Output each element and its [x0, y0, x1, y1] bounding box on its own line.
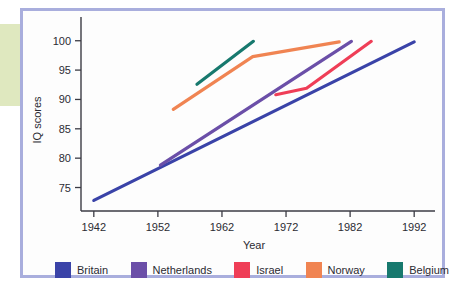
series-line-britain	[94, 42, 414, 201]
legend-swatch-icon	[387, 262, 403, 278]
legend-label: Norway	[328, 264, 365, 276]
x-tick-label: 1942	[82, 221, 106, 233]
chart-legend: BritainNetherlandsIsraelNorwayBelgium	[47, 258, 457, 282]
x-axis-title: Year	[243, 239, 266, 251]
y-tick-label: 100	[53, 35, 71, 47]
x-tick-label: 1952	[146, 221, 170, 233]
series-line-netherlands	[160, 41, 351, 165]
legend-swatch-icon	[306, 262, 322, 278]
x-tick-label: 1982	[338, 221, 362, 233]
legend-item-netherlands[interactable]: Netherlands	[131, 262, 212, 278]
x-tick-label: 1972	[274, 221, 298, 233]
y-tick-label: 85	[59, 123, 71, 135]
y-tick-label: 75	[59, 182, 71, 194]
y-tick-label: 80	[59, 152, 71, 164]
legend-item-belgium[interactable]: Belgium	[387, 262, 449, 278]
legend-item-britain[interactable]: Britain	[55, 262, 108, 278]
y-tick-label: 90	[59, 93, 71, 105]
legend-item-israel[interactable]: Israel	[234, 262, 283, 278]
legend-label: Belgium	[409, 264, 449, 276]
legend-swatch-icon	[131, 262, 147, 278]
y-axis-title: IQ scores	[31, 96, 43, 144]
x-tick-label: 1962	[210, 221, 234, 233]
legend-label: Britain	[77, 264, 108, 276]
legend-item-norway[interactable]: Norway	[306, 262, 365, 278]
x-tick-label: 1992	[402, 221, 426, 233]
decorative-accent-band	[0, 24, 22, 106]
series-line-norway	[173, 42, 339, 110]
legend-swatch-icon	[55, 262, 71, 278]
legend-label: Netherlands	[153, 264, 212, 276]
legend-swatch-icon	[234, 262, 250, 278]
line-chart-plot: 7580859095100194219521962197219821992Yea…	[23, 11, 442, 275]
chart-panel: 7580859095100194219521962197219821992Yea…	[20, 8, 445, 278]
chart-figure: 7580859095100194219521962197219821992Yea…	[0, 0, 459, 286]
legend-label: Israel	[256, 264, 283, 276]
y-tick-label: 95	[59, 64, 71, 76]
